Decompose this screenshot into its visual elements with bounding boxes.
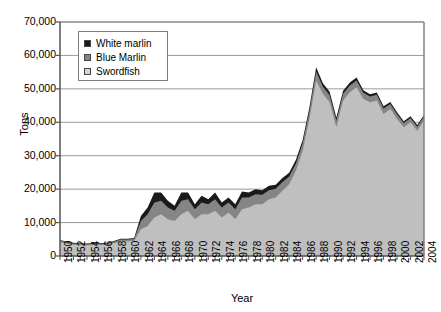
legend-item: Blue Marlin (84, 50, 162, 64)
x-axis-tick-labels: 1950195219541956195819601962196419661968… (0, 0, 441, 312)
legend-label: Blue Marlin (96, 52, 146, 63)
x-tick-label: 1982 (280, 241, 290, 263)
x-tick-label: 1974 (226, 241, 236, 263)
x-tick-label: 1988 (320, 241, 330, 263)
x-tick-label: 1984 (293, 241, 303, 263)
x-tick-label: 1994 (361, 241, 371, 263)
x-tick-label: 1996 (374, 241, 384, 263)
x-tick-label: 1972 (212, 241, 222, 263)
legend-item: Swordfish (84, 64, 162, 78)
legend-swatch-icon (84, 68, 91, 75)
x-tick-label: 2004 (428, 241, 438, 263)
x-tick-label: 1962 (145, 241, 155, 263)
x-tick-label: 1954 (91, 241, 101, 263)
x-tick-label: 2000 (401, 241, 411, 263)
x-tick-label: 1998 (388, 241, 398, 263)
x-tick-label: 1986 (307, 241, 317, 263)
x-tick-label: 1958 (118, 241, 128, 263)
x-tick-label: 1978 (253, 241, 263, 263)
x-tick-label: 1964 (158, 241, 168, 263)
x-tick-label: 2002 (415, 241, 425, 263)
x-tick-label: 1952 (77, 241, 87, 263)
legend-label: White marlin (96, 38, 152, 49)
chart-legend: White marlinBlue MarlinSwordfish (78, 31, 168, 81)
x-tick-label: 1956 (104, 241, 114, 263)
x-tick-label: 1960 (131, 241, 141, 263)
area-chart: 010,00020,00030,00040,00050,00060,00070,… (0, 0, 441, 312)
legend-label: Swordfish (96, 66, 140, 77)
x-tick-label: 1976 (239, 241, 249, 263)
x-tick-label: 1990 (334, 241, 344, 263)
x-tick-label: 1968 (185, 241, 195, 263)
legend-swatch-icon (84, 54, 91, 61)
x-tick-label: 1950 (64, 241, 74, 263)
x-tick-label: 1970 (199, 241, 209, 263)
x-tick-label: 1980 (266, 241, 276, 263)
x-tick-label: 1992 (347, 241, 357, 263)
x-axis-title: Year (60, 292, 424, 304)
x-tick-label: 1966 (172, 241, 182, 263)
legend-item: White marlin (84, 36, 162, 50)
legend-swatch-icon (84, 40, 91, 47)
